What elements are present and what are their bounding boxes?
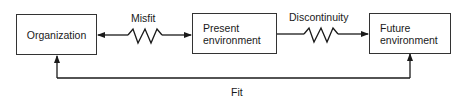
node-future-environment-line1: Future	[380, 22, 438, 34]
node-organization-label: Organization	[27, 29, 87, 41]
node-present-environment-line2: environment	[203, 34, 261, 46]
edge-label-discontinuity: Discontinuity	[289, 11, 349, 23]
edge-label-misfit: Misfit	[131, 12, 156, 24]
node-present-environment-line1: Present	[203, 22, 261, 34]
edge-label-fit: Fit	[231, 86, 243, 98]
node-future-environment-line2: environment	[380, 34, 438, 46]
fit-connector	[57, 54, 410, 78]
node-future-environment: Future environment	[369, 13, 451, 54]
node-present-environment: Present environment	[192, 13, 277, 54]
misfit-connector	[98, 29, 191, 43]
discontinuity-connector	[277, 28, 368, 42]
node-organization: Organization	[16, 14, 97, 55]
